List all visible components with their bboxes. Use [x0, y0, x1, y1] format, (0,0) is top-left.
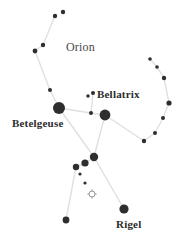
star-shield-5: [161, 116, 165, 120]
star-bellatrix-star: [100, 110, 111, 121]
star-belt-alnitak: [90, 153, 98, 161]
star-sword-lower: [83, 181, 86, 184]
constellation-line: [43, 16, 55, 45]
star-meissa-a: [86, 94, 89, 97]
star-shield-6: [153, 131, 157, 135]
label-orion: Orion: [66, 40, 95, 55]
constellation-line: [66, 167, 76, 220]
star-arm-upper: [48, 88, 52, 92]
star-shield-7: [142, 139, 146, 143]
orion-star-chart: OrionBellatrixBetelgeuseRigel: [0, 0, 184, 250]
star-shield-3: [162, 76, 166, 80]
constellation-line: [91, 93, 93, 113]
star-shield-2: [155, 65, 159, 69]
constellation-line: [105, 115, 144, 141]
star-betelgeuse-star: [53, 102, 65, 114]
star-belt-alnilam: [81, 159, 88, 166]
star-meissa-b: [91, 91, 95, 95]
star-saiph: [63, 217, 70, 224]
star-meissa-c: [89, 111, 93, 115]
star-rigel-star: [119, 204, 128, 213]
nebula-orion-nebula: [87, 189, 96, 198]
label-rigel: Rigel: [116, 218, 141, 230]
label-betelgeuse: Betelgeuse: [12, 117, 63, 129]
star-sword-upper: [78, 172, 81, 175]
star-club-mid-upper: [41, 43, 45, 47]
constellation-line: [59, 108, 94, 157]
constellation-line: [35, 51, 50, 90]
constellation-line: [164, 78, 169, 103]
star-club-mid-lower: [33, 49, 38, 54]
constellation-line: [155, 118, 163, 133]
star-club-tip-upper: [61, 10, 65, 14]
constellation-line: [94, 115, 105, 157]
star-shield-4: [166, 100, 171, 105]
star-shield-1: [148, 57, 152, 61]
star-club-tip-lower: [53, 14, 57, 18]
label-bellatrix: Bellatrix: [97, 88, 140, 100]
constellation-line: [94, 157, 124, 209]
star-belt-mintaka: [73, 164, 79, 170]
nebula-layer: [87, 189, 96, 198]
